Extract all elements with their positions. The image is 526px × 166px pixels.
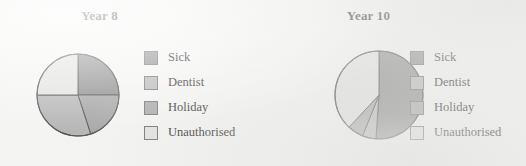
legend-swatch-sick: [144, 51, 158, 65]
legend-label-holiday: Holiday: [434, 100, 474, 115]
legend-swatch-unauthorised: [410, 126, 424, 140]
legend-item-dentist: Dentist: [144, 70, 235, 95]
legend-item-dentist: Dentist: [410, 70, 501, 95]
legend-swatch-unauthorised: [144, 126, 158, 140]
legend-item-holiday: Holiday: [410, 95, 501, 120]
legend-swatch-holiday: [144, 101, 158, 115]
pie-svg-year8: [36, 52, 122, 140]
legend-swatch-sick: [410, 51, 424, 65]
legend-label-holiday: Holiday: [168, 100, 208, 115]
legend-label-sick: Sick: [168, 50, 190, 65]
legend-label-dentist: Dentist: [168, 75, 204, 90]
chart-title-year8: Year 8: [0, 8, 231, 24]
legend-year8: Sick Dentist Holiday Unauthorised: [144, 45, 235, 145]
pie-slice-sick: [78, 54, 119, 95]
legend-label-sick: Sick: [434, 50, 456, 65]
legend-label-unauthorised: Unauthorised: [434, 125, 501, 140]
pie-slice-unauthorised: [37, 54, 78, 95]
legend-item-sick: Sick: [410, 45, 501, 70]
legend-item-sick: Sick: [144, 45, 235, 70]
pie-chart-year8: [36, 52, 122, 140]
chart-panel-year10: Year 10 Sick Dentist Holiday Unauthorise…: [263, 0, 526, 166]
legend-swatch-dentist: [144, 76, 158, 90]
pie-charts-figure: Year 8 Sick Dentist Holiday Unauthorised: [0, 0, 526, 166]
legend-label-unauthorised: Unauthorised: [168, 125, 235, 140]
legend-swatch-dentist: [410, 76, 424, 90]
chart-title-year10: Year 10: [237, 8, 500, 24]
legend-swatch-holiday: [410, 101, 424, 115]
legend-item-unauthorised: Unauthorised: [410, 120, 501, 145]
legend-item-unauthorised: Unauthorised: [144, 120, 235, 145]
legend-year10: Sick Dentist Holiday Unauthorised: [410, 45, 501, 145]
legend-item-holiday: Holiday: [144, 95, 235, 120]
legend-label-dentist: Dentist: [434, 75, 470, 90]
chart-panel-year8: Year 8 Sick Dentist Holiday Unauthorised: [0, 0, 263, 166]
